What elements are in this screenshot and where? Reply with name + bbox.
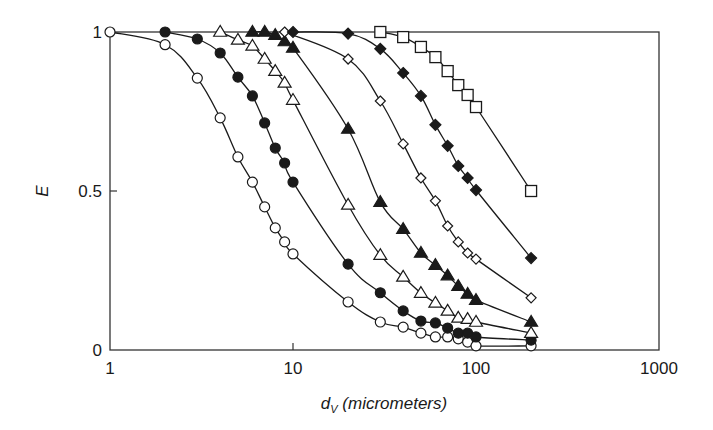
data-point-square-open — [526, 186, 537, 197]
data-point-diamond-open — [443, 221, 453, 231]
series-markers — [105, 26, 538, 351]
x-tick-label: 1000 — [640, 359, 678, 378]
data-point-circle-filled — [270, 143, 280, 153]
data-point-circle-filled — [430, 318, 440, 328]
data-point-triangle-open — [414, 287, 427, 298]
data-point-circle-filled — [215, 48, 225, 58]
data-point-circle-filled — [443, 323, 453, 333]
chart: 110100100000.51 E dV (micrometers) — [0, 0, 713, 430]
data-point-diamond-open — [375, 96, 385, 106]
series-lines — [110, 32, 531, 346]
data-point-circle-filled — [288, 177, 298, 187]
data-point-diamond-filled — [442, 140, 453, 151]
data-point-circle-open — [430, 332, 440, 342]
x-tick-label: 1 — [105, 359, 114, 378]
data-point-triangle-filled — [441, 269, 454, 280]
data-point-diamond-filled — [453, 160, 464, 171]
data-point-diamond-open — [398, 139, 408, 149]
data-point-triangle-open — [246, 39, 259, 50]
series-line-open-triangle — [220, 32, 531, 333]
series-open-diamond-markers — [280, 27, 536, 303]
data-point-circle-filled — [160, 27, 170, 37]
data-point-circle-filled — [416, 316, 426, 326]
data-point-square-open — [398, 32, 409, 43]
data-point-diamond-filled — [415, 90, 426, 101]
data-point-circle-open — [260, 202, 270, 212]
data-point-circle-open — [375, 317, 385, 327]
data-point-circle-open — [215, 113, 225, 123]
data-point-diamond-open — [526, 293, 536, 303]
data-point-diamond-filled — [343, 28, 354, 39]
data-point-circle-filled — [398, 306, 408, 316]
data-point-circle-open — [105, 27, 115, 37]
data-point-diamond-open — [416, 173, 426, 183]
data-point-triangle-open — [278, 76, 291, 87]
data-point-triangle-filled — [429, 259, 442, 270]
data-point-triangle-open — [397, 270, 410, 281]
data-point-triangle-open — [429, 296, 442, 307]
data-point-circle-filled — [260, 118, 270, 128]
data-point-triangle-open — [287, 94, 300, 105]
data-point-circle-filled — [343, 259, 353, 269]
data-point-circle-open — [192, 73, 202, 83]
data-point-circle-filled — [453, 328, 463, 338]
data-point-square-open — [430, 52, 441, 63]
data-point-circle-open — [233, 152, 243, 162]
data-point-circle-filled — [280, 158, 290, 168]
data-point-triangle-open — [214, 26, 227, 37]
data-point-circle-filled — [375, 288, 385, 298]
x-axis-label-units: (micrometers) — [338, 394, 448, 413]
series-line-open-circle — [110, 32, 531, 346]
y-tick-label: 0 — [93, 341, 102, 360]
data-point-circle-filled — [471, 332, 481, 342]
data-point-circle-open — [416, 328, 426, 338]
data-point-triangle-open — [231, 33, 244, 44]
series-line-filled-diamond — [293, 32, 531, 258]
data-point-circle-open — [270, 223, 280, 233]
data-point-circle-open — [343, 297, 353, 307]
data-point-triangle-filled — [342, 122, 355, 133]
data-point-triangle-open — [342, 198, 355, 209]
data-point-triangle-filled — [374, 196, 387, 207]
data-point-diamond-filled — [430, 119, 441, 130]
data-point-circle-filled — [233, 72, 243, 82]
data-point-triangle-open — [441, 304, 454, 315]
data-point-diamond-open — [471, 254, 481, 264]
data-point-square-open — [462, 89, 473, 100]
y-axis-label: E — [33, 185, 52, 197]
chart-canvas: 110100100000.51 E dV (micrometers) — [0, 0, 713, 430]
data-point-circle-open — [160, 40, 170, 50]
series-filled-diamond-markers — [288, 27, 537, 264]
y-tick-label: 0.5 — [78, 182, 102, 201]
data-point-circle-open — [398, 322, 408, 332]
data-point-circle-filled — [247, 91, 257, 101]
data-point-triangle-open — [374, 249, 387, 260]
y-tick-label: 1 — [93, 23, 102, 42]
x-axis-label: dV (micrometers) — [321, 394, 447, 415]
data-point-square-open — [375, 27, 386, 38]
x-tick-label: 10 — [284, 359, 303, 378]
data-point-circle-open — [247, 177, 257, 187]
data-point-triangle-filled — [246, 26, 259, 37]
x-tick-label: 100 — [462, 359, 490, 378]
data-point-square-open — [442, 66, 453, 77]
data-point-square-open — [471, 102, 482, 113]
data-point-circle-filled — [192, 34, 202, 44]
data-point-triangle-filled — [258, 26, 271, 37]
data-point-circle-open — [280, 237, 290, 247]
data-point-square-open — [415, 41, 426, 52]
data-point-diamond-open — [430, 196, 440, 206]
series-open-square-markers — [375, 27, 537, 197]
data-point-circle-open — [288, 249, 298, 259]
